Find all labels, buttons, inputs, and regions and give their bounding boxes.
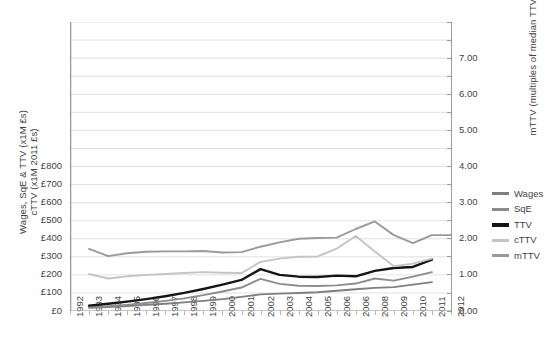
x-axis-tick xyxy=(222,311,223,315)
y-axis-right-tick xyxy=(447,166,452,167)
y-axis-right-tick-label: 5.00 xyxy=(459,124,499,135)
x-axis-tick xyxy=(184,311,185,315)
y-axis-left-tick-label: £100 xyxy=(16,286,62,297)
x-axis-tick xyxy=(165,311,166,315)
y-axis-left-title: Wages, SqE & TTV (x1M £s) cTTV (x1M 2011… xyxy=(17,92,39,252)
legend-item-cttv[interactable]: cTTV xyxy=(492,233,550,249)
legend-label: mTTV xyxy=(514,251,540,261)
y-axis-right-tick xyxy=(447,184,452,185)
plot-svg xyxy=(70,22,451,311)
legend-swatch-mttv xyxy=(492,254,509,257)
y-axis-left-tick-label: £600 xyxy=(16,196,62,207)
legend-label: SqE xyxy=(514,204,532,214)
y-axis-right-tick xyxy=(447,40,452,41)
y-axis-right-tick xyxy=(447,112,452,113)
y-axis-right-tick xyxy=(447,76,452,77)
x-axis-tick xyxy=(299,311,300,315)
legend-item-wages[interactable]: Wages xyxy=(492,186,550,202)
y-axis-left-tick-label: £500 xyxy=(16,214,62,225)
legend-swatch-cttv xyxy=(492,239,509,242)
y-axis-right-tick xyxy=(447,238,452,239)
y-axis-right-tick xyxy=(447,220,452,221)
series-line-cttv xyxy=(89,236,432,278)
legend-swatch-sqe xyxy=(492,208,509,211)
y-axis-right-title: mTTV (multiples of median TTV) xyxy=(527,0,538,146)
y-axis-right-tick xyxy=(447,148,452,149)
legend-item-ttv[interactable]: TTV xyxy=(492,217,550,233)
chart-container: Wages, SqE & TTV (x1M £s) cTTV (x1M 2011… xyxy=(0,0,551,359)
chart-legend: WagesSqETTVcTTVmTTV xyxy=(492,186,550,264)
x-axis-tick xyxy=(146,311,147,315)
legend-swatch-ttv xyxy=(492,223,509,227)
y-axis-right-tick xyxy=(447,94,452,95)
x-axis-tick xyxy=(89,311,90,315)
y-axis-left-tick-label: £700 xyxy=(16,178,62,189)
plot-area xyxy=(70,22,451,311)
x-axis-tick xyxy=(413,311,414,315)
x-axis-tick xyxy=(394,311,395,315)
y-axis-right-tick xyxy=(447,293,452,294)
y-axis-right-tick-label: 4.00 xyxy=(459,160,499,171)
y-axis-right-tick xyxy=(447,22,452,23)
y-axis-left-title-line2: cTTV (x1M 2011 £s) xyxy=(28,92,39,252)
legend-label: TTV xyxy=(514,220,532,230)
x-axis-tick xyxy=(432,311,433,315)
x-axis-tick xyxy=(242,311,243,315)
y-axis-left-tick-label: £800 xyxy=(16,160,62,171)
y-axis-right-tick xyxy=(447,130,452,131)
x-axis-tick xyxy=(203,311,204,315)
y-axis-left-tick-label: £300 xyxy=(16,250,62,261)
legend-label: cTTV xyxy=(514,235,537,245)
x-axis-tick xyxy=(375,311,376,315)
x-axis-tick xyxy=(337,311,338,315)
y-axis-right-tick xyxy=(447,202,452,203)
x-axis-tick xyxy=(127,311,128,315)
x-axis-tick xyxy=(318,311,319,315)
y-axis-left-title-line1: Wages, SqE & TTV (x1M £s) xyxy=(17,92,28,252)
x-axis-tick xyxy=(280,311,281,315)
y-axis-right-tick-label: 1.00 xyxy=(459,268,499,279)
x-axis-tick xyxy=(356,311,357,315)
legend-swatch-wages xyxy=(492,192,509,195)
y-axis-right-tick xyxy=(447,256,452,257)
series-line-ttv xyxy=(89,260,432,306)
x-axis-tick xyxy=(70,311,71,315)
y-axis-right-tick xyxy=(447,58,452,59)
x-axis-tick xyxy=(108,311,109,315)
x-axis-tick xyxy=(261,311,262,315)
y-axis-right-tick-label: 7.00 xyxy=(459,52,499,63)
series-line-sqe xyxy=(89,272,432,307)
legend-label: Wages xyxy=(514,189,543,199)
legend-item-mttv[interactable]: mTTV xyxy=(492,248,550,264)
y-axis-left-tick-label: £400 xyxy=(16,232,62,243)
y-axis-left-tick-label: £0 xyxy=(16,305,62,316)
legend-item-sqe[interactable]: SqE xyxy=(492,202,550,218)
y-axis-left-tick-label: £200 xyxy=(16,268,62,279)
x-axis-tick-label: 2012 xyxy=(455,296,466,317)
x-axis-tick xyxy=(451,311,452,315)
y-axis-right-tick xyxy=(447,311,452,312)
y-axis-right-tick-label: 6.00 xyxy=(459,88,499,99)
y-axis-right-tick xyxy=(447,274,452,275)
